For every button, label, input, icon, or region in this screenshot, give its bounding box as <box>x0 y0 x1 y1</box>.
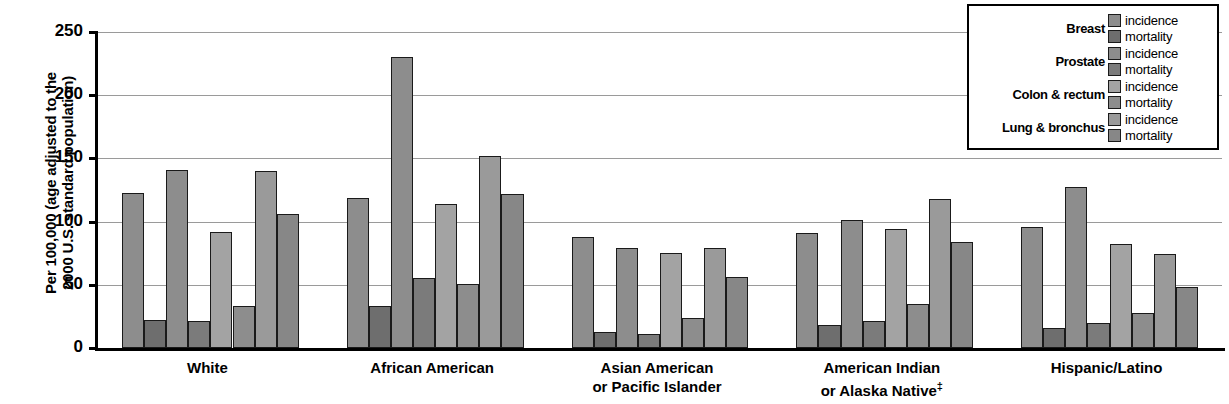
y-axis-title-line1: Per 100,000 (age adjusted to the <box>42 72 59 294</box>
bar-mor-lung-4 <box>1176 287 1198 348</box>
legend-entry-incidence: incidence <box>1108 112 1178 128</box>
bar-mor-breast-3 <box>818 325 840 348</box>
bar-inc-lung-3 <box>929 199 951 348</box>
bar-inc-lung-4 <box>1154 254 1176 348</box>
bar-inc-colon-3 <box>885 229 907 348</box>
legend-row: Breastincidencemortality <box>975 12 1211 45</box>
legend-series-name: Colon & rectum <box>975 87 1108 102</box>
bar-mor-colon-1 <box>457 284 479 348</box>
bar-mor-colon-4 <box>1132 313 1154 348</box>
group-label-line1: White <box>87 358 327 377</box>
legend-swatch-mortality-icon <box>1108 96 1121 109</box>
legend-entries: incidencemortality <box>1108 112 1178 144</box>
y-axis-tick <box>89 284 98 287</box>
legend-series-name: Lung & bronchus <box>975 120 1108 135</box>
y-axis-tick-label: 150 <box>27 147 83 167</box>
x-axis-group-label: American Indianor Alaska Native‡ <box>762 358 1002 400</box>
bar-chart: Per 100,000 (age adjusted to the 2000 U.… <box>0 0 1229 404</box>
bar-mor-prostate-2 <box>638 334 660 348</box>
y-axis-tick <box>89 31 98 34</box>
legend-entry-incidence: incidence <box>1108 79 1178 95</box>
legend-entry-label: incidence <box>1125 13 1178 28</box>
group-label-line2: or Pacific Islander <box>537 377 777 396</box>
bar-inc-colon-4 <box>1110 244 1132 348</box>
bar-inc-breast-3 <box>796 233 818 348</box>
bar-inc-prostate-0 <box>166 170 188 348</box>
legend-row: Lung & bronchusincidencemortality <box>975 111 1211 144</box>
legend-entries: incidencemortality <box>1108 46 1178 78</box>
legend-swatch-incidence-icon <box>1108 14 1121 27</box>
bar-mor-prostate-0 <box>188 321 210 348</box>
group-label-line1: American Indian <box>762 358 1002 377</box>
legend-row: Prostateincidencemortality <box>975 45 1211 78</box>
group-label-line1: Hispanic/Latino <box>987 358 1227 377</box>
bar-inc-colon-2 <box>660 253 682 348</box>
bar-inc-lung-1 <box>479 156 501 348</box>
bar-inc-colon-0 <box>210 232 232 348</box>
legend-swatch-mortality-icon <box>1108 63 1121 76</box>
bar-inc-prostate-1 <box>391 57 413 348</box>
legend-swatch-mortality-icon <box>1108 129 1121 142</box>
bar-mor-lung-0 <box>277 214 299 348</box>
legend-entry-label: incidence <box>1125 79 1178 94</box>
legend-entry-mortality: mortality <box>1108 95 1178 111</box>
y-axis-tick-label: 0 <box>27 337 83 357</box>
legend-entry-incidence: incidence <box>1108 46 1178 62</box>
x-axis-group-label: Asian Americanor Pacific Islander <box>537 358 777 396</box>
y-axis-tick-label: 200 <box>27 84 83 104</box>
legend-entry-label: incidence <box>1125 46 1178 61</box>
x-axis-group-label: White <box>87 358 327 377</box>
legend-entry-label: mortality <box>1125 29 1172 44</box>
bar-group <box>572 32 749 348</box>
y-axis-tick-label: 100 <box>27 211 83 231</box>
bar-mor-colon-0 <box>233 306 255 348</box>
bar-mor-lung-2 <box>726 277 748 348</box>
bar-mor-breast-4 <box>1043 328 1065 348</box>
bar-mor-prostate-3 <box>863 321 885 348</box>
chart-legend: BreastincidencemortalityProstateincidenc… <box>967 4 1219 150</box>
bar-inc-prostate-4 <box>1065 187 1087 348</box>
bar-group <box>347 32 524 348</box>
x-axis-line <box>95 348 1225 351</box>
bar-inc-lung-2 <box>704 248 726 348</box>
legend-swatch-incidence-icon <box>1108 113 1121 126</box>
bar-group <box>122 32 299 348</box>
bar-mor-lung-3 <box>951 242 973 348</box>
y-axis-tick <box>89 94 98 97</box>
bar-inc-breast-2 <box>572 237 594 348</box>
bar-inc-prostate-2 <box>616 248 638 348</box>
legend-series-name: Breast <box>975 21 1108 36</box>
legend-swatch-incidence-icon <box>1108 47 1121 60</box>
legend-row: Colon & rectumincidencemortality <box>975 78 1211 111</box>
legend-entry-mortality: mortality <box>1108 29 1178 45</box>
bar-inc-breast-0 <box>122 193 144 348</box>
bar-mor-colon-2 <box>682 318 704 348</box>
group-label-line1: Asian American <box>537 358 777 377</box>
legend-swatch-incidence-icon <box>1108 80 1121 93</box>
legend-entry-label: mortality <box>1125 62 1172 77</box>
legend-entry-mortality: mortality <box>1108 62 1178 78</box>
bar-mor-breast-2 <box>594 332 616 348</box>
bar-mor-breast-0 <box>144 320 166 348</box>
bar-inc-lung-0 <box>255 171 277 348</box>
legend-swatch-mortality-icon <box>1108 30 1121 43</box>
bar-mor-prostate-4 <box>1087 323 1109 348</box>
legend-entries: incidencemortality <box>1108 13 1178 45</box>
legend-entries: incidencemortality <box>1108 79 1178 111</box>
bar-group <box>796 32 973 348</box>
bar-mor-breast-1 <box>369 306 391 348</box>
group-label-line1: African American <box>312 358 552 377</box>
group-label-line2: or Alaska Native‡ <box>762 377 1002 400</box>
bar-inc-prostate-3 <box>841 220 863 348</box>
footnote-marker: ‡ <box>937 380 943 392</box>
y-axis-tick-label: 50 <box>27 274 83 294</box>
legend-entry-label: mortality <box>1125 128 1172 143</box>
bar-inc-colon-1 <box>435 204 457 348</box>
legend-entry-incidence: incidence <box>1108 13 1178 29</box>
x-axis-group-label: African American <box>312 358 552 377</box>
legend-series-name: Prostate <box>975 54 1108 69</box>
y-axis-tick <box>89 157 98 160</box>
y-axis-tick <box>89 221 98 224</box>
y-axis-tick-label: 250 <box>27 21 83 41</box>
bar-mor-prostate-1 <box>413 278 435 348</box>
